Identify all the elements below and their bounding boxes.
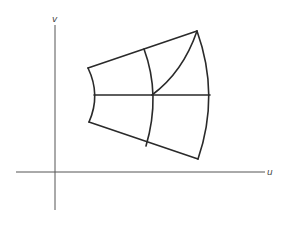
region-top-edge bbox=[88, 31, 197, 68]
region-bottom-edge bbox=[89, 122, 198, 159]
region-diagonal-curve bbox=[152, 31, 197, 95]
v-axis-label: v bbox=[52, 14, 58, 24]
mapped-region bbox=[88, 31, 210, 159]
uv-plane-diagram: v u bbox=[0, 0, 286, 233]
region-middle-arc bbox=[144, 49, 153, 146]
u-axis-label: u bbox=[267, 167, 273, 177]
